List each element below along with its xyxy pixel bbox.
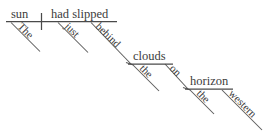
label-subject: sun [11,7,29,21]
label-the-subject: The [16,20,37,41]
diagram-canvas: sun had slipped The just behind clouds t… [0,0,271,138]
label-horizon: horizon [190,74,229,88]
label-behind: behind [94,20,124,50]
label-the-clouds: the [138,62,156,80]
label-the-horizon: the [195,87,213,105]
sentence-diagram: sun had slipped The just behind clouds t… [0,0,271,138]
label-just: just [62,19,82,39]
label-predicate: had slipped [51,7,109,21]
label-western: western [227,87,260,120]
label-clouds: clouds [133,49,166,63]
